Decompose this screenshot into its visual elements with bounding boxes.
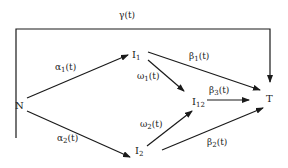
- label-beta1: β1(t): [189, 51, 209, 64]
- node-T: T: [266, 93, 273, 104]
- label-gamma: γ(t): [119, 10, 135, 20]
- label-alpha1: α1(t): [55, 62, 76, 75]
- node-I1: I1: [132, 49, 140, 64]
- node-I12: I12: [192, 96, 205, 111]
- label-beta3: β3(t): [209, 85, 229, 98]
- label-alpha2: α2(t): [57, 133, 78, 146]
- label-omega1: ω1(t): [137, 71, 159, 84]
- node-I2: I2: [135, 145, 143, 160]
- label-beta2: β2(t): [207, 137, 227, 150]
- node-N: N: [15, 100, 24, 111]
- label-omega2: ω2(t): [140, 119, 162, 132]
- edge-alpha2: [27, 111, 130, 157]
- edge-alpha1: [27, 55, 128, 98]
- diagram-arrows: [0, 0, 288, 168]
